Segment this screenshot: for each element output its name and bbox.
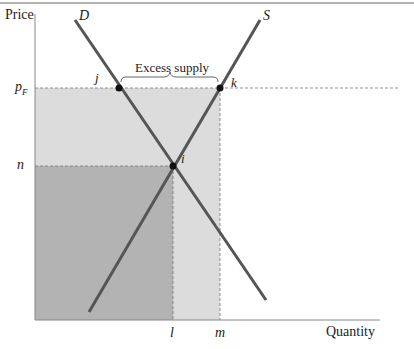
point-j-label: j — [95, 70, 99, 86]
point-k-label: k — [231, 75, 237, 91]
price-floor-label: pF — [15, 79, 28, 97]
dark-region — [35, 166, 173, 320]
equilibrium-quantity-label: l — [170, 325, 174, 341]
demand-label: D — [79, 8, 89, 24]
supply-demand-chart — [0, 0, 414, 349]
x-axis-label: Quantity — [326, 324, 375, 340]
point-k — [217, 85, 224, 92]
price-floor-label-main: p — [15, 79, 22, 94]
supply-label: S — [263, 8, 270, 24]
quantity-supplied-label: m — [215, 325, 225, 341]
excess-supply-label: Excess supply — [135, 60, 209, 76]
y-axis-label: Price — [5, 7, 34, 23]
point-i-label: i — [181, 151, 185, 167]
equilibrium-price-label: n — [17, 157, 24, 173]
point-i — [170, 163, 177, 170]
price-floor-label-sub: F — [22, 87, 28, 97]
point-j — [116, 85, 123, 92]
